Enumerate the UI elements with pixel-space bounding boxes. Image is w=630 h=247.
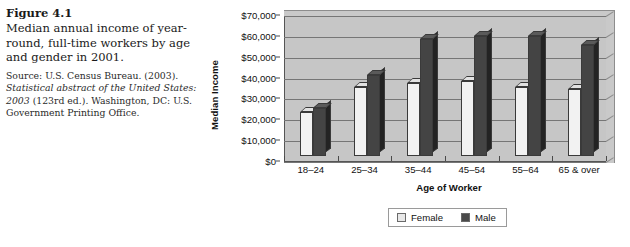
legend-swatch-male-icon bbox=[461, 213, 470, 222]
y-axis-tick-mark bbox=[276, 56, 280, 57]
bar-male-0 bbox=[313, 108, 326, 156]
bar-front-face bbox=[313, 108, 326, 156]
bar-front-face bbox=[367, 75, 380, 156]
bar-female-1 bbox=[354, 87, 367, 156]
bar-front-face bbox=[354, 87, 367, 156]
x-axis-tick-label: 18–24 bbox=[297, 164, 324, 175]
x-axis-tick-label: 45–54 bbox=[458, 164, 485, 175]
bar-male-2 bbox=[420, 39, 433, 156]
y-axis-tick-label: $50,000 bbox=[241, 51, 276, 62]
gridline bbox=[284, 162, 606, 163]
plot-area bbox=[284, 10, 614, 162]
bar-front-face bbox=[461, 81, 474, 156]
y-axis-title: Median Income bbox=[209, 30, 223, 160]
bars-layer bbox=[284, 10, 614, 162]
x-axis-tick-label: 65 & over bbox=[559, 164, 600, 175]
legend-swatch-female-icon bbox=[397, 213, 406, 222]
y-axis-tick-label: $0 bbox=[265, 156, 276, 167]
y-axis-tick-label: $20,000 bbox=[241, 114, 276, 125]
y-axis-tick-mark bbox=[276, 15, 280, 16]
x-axis-tick-labels: 18–2425–3435–4445–5455–6465 & over bbox=[278, 164, 622, 178]
figure-number: Figure 4.1 bbox=[6, 6, 206, 20]
y-axis-tick-mark bbox=[276, 35, 280, 36]
bar-front-face bbox=[568, 89, 581, 156]
bar-side-face bbox=[594, 38, 599, 152]
source-prefix: Source: U.S. Census Bureau. (2003). bbox=[6, 70, 178, 81]
y-axis-tick-mark bbox=[276, 98, 280, 99]
bar-female-5 bbox=[568, 89, 581, 156]
x-axis-tick-mark bbox=[606, 156, 607, 161]
y-axis-tick-label: $70,000 bbox=[241, 10, 276, 21]
x-axis-tick-mark bbox=[338, 156, 339, 161]
figure-root: Figure 4.1 Median annual income of year-… bbox=[0, 0, 630, 247]
bar-side-face bbox=[326, 100, 331, 152]
x-axis-tick-mark bbox=[284, 156, 285, 161]
y-axis-tick-label: $60,000 bbox=[241, 30, 276, 41]
bar-male-4 bbox=[528, 36, 541, 156]
y-axis-tick-mark bbox=[276, 119, 280, 120]
y-axis-tick-mark bbox=[276, 161, 280, 162]
bar-female-3 bbox=[461, 81, 474, 156]
y-axis-tick-label: $30,000 bbox=[241, 93, 276, 104]
bar-female-2 bbox=[407, 83, 420, 156]
bar-front-face bbox=[420, 39, 433, 156]
bar-male-5 bbox=[581, 45, 594, 156]
legend-label-male: Male bbox=[475, 212, 496, 223]
x-axis-tick-mark bbox=[445, 156, 446, 161]
bar-front-face bbox=[300, 112, 313, 156]
x-axis-tick-label: 35–44 bbox=[405, 164, 432, 175]
figure-caption-text: Median annual income of year-round, full… bbox=[6, 21, 206, 65]
bar-front-face bbox=[515, 87, 528, 156]
bar-side-face bbox=[487, 28, 492, 152]
legend-entry-male[interactable]: Male bbox=[461, 212, 496, 223]
chart-panel: Median Income $0$10,000$20,000$30,000$40… bbox=[222, 2, 626, 245]
y-axis-tick-label: $40,000 bbox=[241, 72, 276, 83]
figure-source-citation: Source: U.S. Census Bureau. (2003). Stat… bbox=[6, 70, 206, 120]
chart-legend: Female Male bbox=[388, 208, 507, 227]
bar-side-face bbox=[541, 28, 546, 152]
x-axis-tick-mark bbox=[391, 156, 392, 161]
bar-female-4 bbox=[515, 87, 528, 156]
figure-caption-block: Figure 4.1 Median annual income of year-… bbox=[6, 6, 206, 120]
legend-entry-female[interactable]: Female bbox=[397, 212, 443, 223]
y-axis-tick-mark bbox=[276, 77, 280, 78]
x-axis-tick-marks bbox=[284, 156, 614, 162]
legend-label-female: Female bbox=[411, 212, 443, 223]
bar-male-3 bbox=[474, 36, 487, 156]
x-axis-tick-label: 55–64 bbox=[512, 164, 539, 175]
y-axis-tick-labels: $0$10,000$20,000$30,000$40,000$50,000$60… bbox=[224, 7, 280, 169]
bar-front-face bbox=[407, 83, 420, 156]
bar-front-face bbox=[474, 36, 487, 156]
bar-front-face bbox=[581, 45, 594, 156]
y-axis-tick-mark bbox=[276, 140, 280, 141]
x-axis-tick-mark bbox=[552, 156, 553, 161]
source-suffix: (123rd ed.). Washington, DC: U.S. Govern… bbox=[6, 95, 192, 119]
bar-side-face bbox=[380, 67, 385, 152]
y-axis-tick-label: $10,000 bbox=[241, 135, 276, 146]
bar-front-face bbox=[528, 36, 541, 156]
x-axis-title: Age of Worker bbox=[284, 182, 614, 193]
bar-male-1 bbox=[367, 75, 380, 156]
bar-side-face bbox=[433, 32, 438, 152]
x-axis-tick-mark bbox=[499, 156, 500, 161]
bar-female-0 bbox=[300, 112, 313, 156]
x-axis-tick-label: 25–34 bbox=[351, 164, 378, 175]
